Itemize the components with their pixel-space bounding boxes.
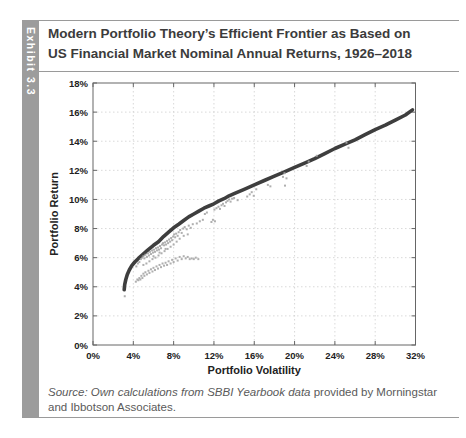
scatter-point	[222, 203, 224, 205]
scatter-point	[316, 155, 318, 157]
scatter-point	[181, 258, 183, 260]
scatter-point	[228, 198, 230, 200]
scatter-point	[183, 255, 185, 257]
scatter-point	[251, 191, 253, 193]
scatter-point	[175, 233, 177, 235]
scatter-point	[152, 255, 154, 257]
scatter-point	[199, 220, 201, 222]
x-tick-label: 8%	[167, 350, 181, 361]
scatter-point	[148, 260, 150, 262]
x-tick-label: 32%	[406, 350, 426, 361]
scatter-point	[187, 233, 189, 235]
scatter-point	[170, 262, 172, 264]
scatter-point	[150, 253, 152, 255]
y-tick-label: 10%	[69, 194, 89, 205]
x-tick-label: 0%	[86, 350, 100, 361]
scatter-point	[179, 256, 181, 258]
scatter-point	[143, 257, 145, 259]
scatter-point	[233, 197, 235, 199]
scatter-point	[137, 279, 139, 281]
page: { "exhibit": { "tab_label": "Exhibit 3.3…	[0, 0, 466, 438]
scatter-point	[147, 270, 149, 272]
scatter-point	[135, 265, 137, 267]
x-tick-label: 24%	[325, 350, 345, 361]
scatter-point	[230, 201, 232, 203]
scatter-point	[219, 208, 221, 210]
scatter-point	[196, 222, 198, 224]
scatter-point	[202, 219, 204, 221]
scatter-point	[146, 256, 148, 258]
plot-border	[93, 83, 416, 345]
scatter-point	[164, 241, 166, 243]
scatter-point	[255, 188, 257, 190]
scatter-point	[139, 279, 141, 281]
scatter-point	[143, 275, 145, 277]
scatter-point	[166, 240, 168, 242]
scatter-point	[249, 193, 251, 195]
scatter-point	[144, 254, 146, 256]
y-tick-label: 8%	[74, 223, 88, 234]
efficient-frontier-chart: 0%4%8%12%16%20%24%28%32%0%2%4%6%8%10%12%…	[0, 0, 466, 438]
scatter-point	[152, 267, 154, 269]
scatter-point	[176, 241, 178, 243]
scatter-point	[165, 248, 167, 250]
bottom-rule	[22, 417, 459, 418]
scatter-point	[151, 249, 153, 251]
scatter-point	[204, 213, 206, 215]
scatter-point	[148, 254, 150, 256]
scatter-point	[171, 239, 173, 241]
scatter-point	[160, 247, 162, 249]
y-tick-label: 6%	[74, 252, 88, 263]
scatter-point	[345, 142, 347, 144]
scatter-point	[167, 242, 169, 244]
scatter-point	[187, 256, 189, 258]
scatter-point	[269, 185, 271, 187]
scatter-point	[151, 258, 153, 260]
y-tick-label: 12%	[69, 165, 89, 176]
scatter-point	[151, 270, 153, 272]
scatter-point	[142, 255, 144, 257]
scatter-point	[165, 244, 167, 246]
scatter-point	[163, 265, 165, 267]
scatter-point	[156, 249, 158, 251]
y-axis-title: Portfolio Return	[48, 172, 60, 256]
scatter-point	[159, 264, 161, 266]
scatter-point	[188, 225, 190, 227]
source-note: Source: Own calculations from SBBI Yearb…	[48, 385, 454, 415]
scatter-point	[155, 265, 157, 267]
scatter-point	[175, 257, 177, 259]
scatter-point	[155, 247, 157, 249]
scatter-point	[282, 176, 284, 178]
scatter-point	[170, 246, 172, 248]
scatter-point	[146, 273, 148, 275]
y-tick-label: 16%	[69, 107, 89, 118]
x-axis-title: Portfolio Volatility	[208, 364, 302, 376]
scatter-point	[215, 207, 217, 209]
scatter-point	[138, 261, 140, 263]
scatter-point	[179, 229, 181, 231]
scatter-point	[213, 209, 215, 211]
scatter-point	[152, 252, 154, 254]
scatter-point	[308, 161, 310, 163]
scatter-point	[173, 233, 175, 235]
scatter-point	[286, 177, 288, 179]
scatter-point	[142, 264, 144, 266]
scatter-point	[150, 268, 152, 270]
scatter-point	[192, 223, 194, 225]
y-tick-label: 2%	[74, 310, 88, 321]
scatter-point	[183, 235, 185, 237]
scatter-point	[142, 273, 144, 275]
y-tick-label: 18%	[69, 78, 89, 89]
scatter-point	[210, 221, 212, 223]
x-tick-label: 28%	[366, 350, 386, 361]
scatter-point	[212, 219, 214, 221]
scatter-point	[195, 257, 197, 259]
x-tick-label: 20%	[285, 350, 305, 361]
x-tick-label: 12%	[204, 350, 224, 361]
scatter-point	[237, 199, 239, 201]
y-tick-label: 14%	[69, 136, 89, 147]
scatter-point	[158, 254, 160, 256]
scatter-point	[153, 249, 155, 251]
scatter-point	[177, 260, 179, 262]
scatter-point	[253, 195, 255, 197]
